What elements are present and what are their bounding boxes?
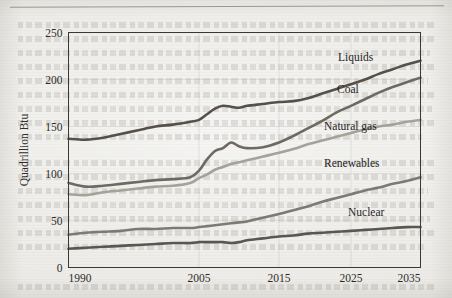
y-axis-tick-label: 200: [45, 74, 63, 86]
series-label-liquids: Liquids: [338, 51, 374, 64]
plot-frame: [69, 33, 421, 268]
x-axis-tick-label: 2015: [268, 272, 291, 284]
x-axis-tick-labels: 19902005201520252035: [69, 272, 421, 284]
y-axis-title: Quadrillion Btu: [18, 113, 30, 186]
y-axis-tick-label: 250: [45, 27, 63, 39]
line-chart-figure: 050100150200250 19902005201520252035 Liq…: [0, 0, 452, 298]
y-axis-tick-labels: 050100150200250: [45, 27, 63, 274]
series-label-coal: Coal: [337, 83, 359, 95]
series-line-coal: [69, 78, 421, 187]
y-axis-tick-label: 100: [45, 168, 63, 180]
gridlines: [69, 33, 421, 268]
y-axis-tick-label: 150: [45, 121, 63, 133]
x-axis-tick-label: 2005: [188, 272, 211, 284]
x-axis-tick-label: 1990: [69, 272, 92, 284]
y-axis-tick-label: 50: [51, 215, 63, 227]
x-axis-tick-label: 2035: [398, 272, 421, 284]
x-axis-tick-label: 2025: [340, 272, 363, 284]
series-label-renewables: Renewables: [324, 157, 380, 169]
chart-canvas: 050100150200250 19902005201520252035 Liq…: [0, 0, 452, 298]
series-label-natural-gas: Natural gas: [324, 120, 377, 133]
y-axis-tick-label: 0: [57, 262, 63, 274]
series-label-nuclear: Nuclear: [348, 206, 385, 218]
